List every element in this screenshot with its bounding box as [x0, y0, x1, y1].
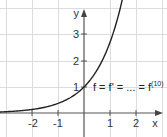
y-axis-label: y — [74, 7, 80, 19]
equation-superscript: (10) — [151, 80, 163, 88]
y-tick-label: 1 — [73, 81, 79, 93]
y-tick-label: 2 — [73, 55, 79, 67]
x-tick-label: 1 — [107, 117, 113, 129]
y-tick-label: 3 — [73, 28, 79, 40]
exponential-curve — [0, 0, 123, 112]
x-tick-label: -1 — [53, 117, 63, 129]
x-tick-label: -2 — [28, 117, 38, 129]
x-tick-label: 2 — [133, 117, 139, 129]
exponential-chart: -2 -1 1 2 x 1 2 3 y f = f' = ... = f(10) — [0, 0, 167, 137]
y-axis-arrow-icon — [81, 9, 87, 17]
equation-main: f = f' = ... = f — [93, 81, 152, 93]
equation-label: f = f' = ... = f(10) — [93, 80, 164, 93]
x-axis-arrow-icon — [155, 110, 163, 116]
x-axis-label: x — [152, 117, 158, 129]
